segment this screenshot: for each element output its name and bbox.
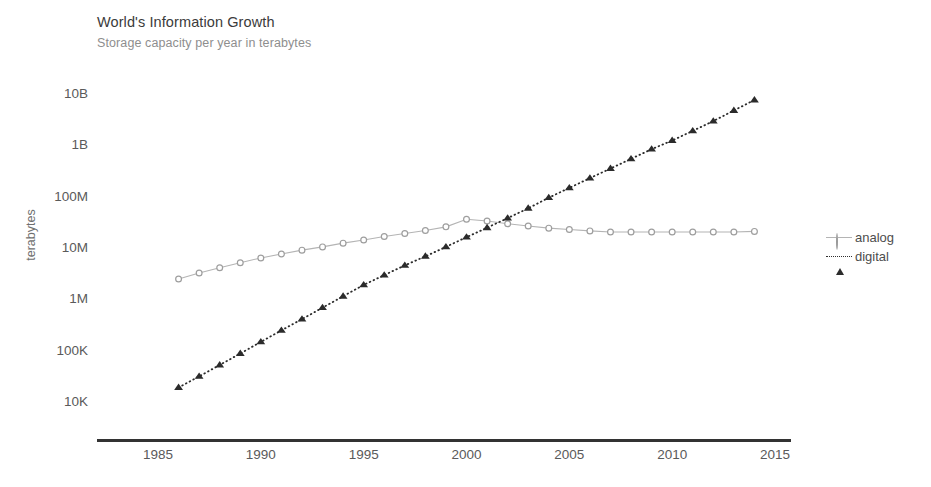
circle-marker-icon xyxy=(299,247,305,253)
triangle-marker-icon xyxy=(627,155,636,161)
circle-marker-icon xyxy=(443,224,449,230)
circle-marker-icon xyxy=(628,229,634,235)
triangle-marker-icon xyxy=(174,384,183,390)
triangle-marker-icon xyxy=(421,252,430,258)
chart-legend: analog digital xyxy=(826,228,894,266)
circle-marker-icon xyxy=(690,229,696,235)
circle-marker-icon xyxy=(566,227,572,233)
legend-label-analog: analog xyxy=(855,231,894,244)
circle-marker-icon xyxy=(464,216,470,222)
circle-marker-icon xyxy=(710,229,716,235)
legend-item-digital[interactable]: digital xyxy=(826,247,894,266)
plot-area xyxy=(0,0,931,487)
triangle-marker-icon xyxy=(836,253,844,275)
triangle-marker-icon xyxy=(195,372,204,378)
circle-marker-icon xyxy=(258,255,264,261)
circle-marker-icon xyxy=(836,233,838,250)
series-line xyxy=(179,219,755,279)
triangle-marker-icon xyxy=(688,127,697,133)
triangle-marker-icon xyxy=(586,174,595,180)
triangle-marker-icon xyxy=(380,271,389,277)
circle-marker-icon xyxy=(422,228,428,234)
circle-marker-icon xyxy=(484,218,490,224)
circle-marker-icon xyxy=(669,229,675,235)
legend-item-analog[interactable]: analog xyxy=(826,228,894,247)
legend-swatch-digital xyxy=(826,251,852,263)
circle-marker-icon xyxy=(402,231,408,237)
circle-marker-icon xyxy=(176,276,182,282)
circle-marker-icon xyxy=(505,221,511,227)
circle-marker-icon xyxy=(196,270,202,276)
triangle-marker-icon xyxy=(339,292,348,298)
circle-marker-icon xyxy=(279,251,285,257)
circle-marker-icon xyxy=(340,240,346,246)
legend-swatch-analog xyxy=(826,232,852,244)
circle-marker-icon xyxy=(546,225,552,231)
triangle-marker-icon xyxy=(729,106,738,112)
circle-marker-icon xyxy=(587,228,593,234)
triangle-marker-icon xyxy=(483,224,492,230)
triangle-marker-icon xyxy=(524,204,533,210)
triangle-marker-icon xyxy=(215,361,224,367)
series-line xyxy=(179,100,755,388)
circle-marker-icon xyxy=(608,229,614,235)
circle-marker-icon xyxy=(237,260,243,266)
chart-container: World's Information Growth Storage capac… xyxy=(0,0,931,487)
legend-label-digital: digital xyxy=(855,250,889,263)
series-digital xyxy=(174,96,759,390)
circle-marker-icon xyxy=(320,244,326,250)
circle-marker-icon xyxy=(217,265,223,271)
triangle-marker-icon xyxy=(236,350,245,356)
triangle-marker-icon xyxy=(277,326,286,332)
circle-marker-icon xyxy=(752,229,758,235)
triangle-marker-icon xyxy=(442,243,451,249)
circle-marker-icon xyxy=(525,223,531,229)
series-analog xyxy=(176,216,758,282)
circle-marker-icon xyxy=(381,234,387,240)
triangle-marker-icon xyxy=(298,315,307,321)
circle-marker-icon xyxy=(361,237,367,243)
circle-marker-icon xyxy=(731,229,737,235)
circle-marker-icon xyxy=(649,229,655,235)
triangle-marker-icon xyxy=(750,96,759,102)
